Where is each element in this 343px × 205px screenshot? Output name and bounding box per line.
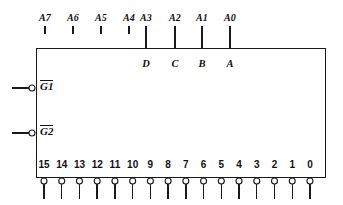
- output-bubble-4: [236, 178, 242, 184]
- output-bubble-1: [289, 178, 295, 184]
- output-bubble-11: [112, 178, 118, 184]
- output-bubble-12: [94, 178, 100, 184]
- logic-diagram: A7A6A5A4A3A2A1A0DCBAG1G21514131211109876…: [0, 0, 343, 205]
- output-bubble-7: [183, 178, 189, 184]
- output-label-9: 9: [148, 160, 154, 170]
- address-label-A6: A6: [67, 13, 79, 23]
- diagram-canvas: [0, 0, 343, 205]
- output-bubble-8: [165, 178, 171, 184]
- output-bubble-10: [130, 178, 136, 184]
- data-input-label-B: B: [198, 59, 205, 70]
- output-label-10: 10: [127, 160, 138, 170]
- output-label-11: 11: [110, 160, 121, 170]
- output-label-3: 3: [254, 160, 260, 170]
- output-bubble-15: [41, 178, 47, 184]
- data-input-label-C: C: [171, 59, 178, 70]
- inversion-bubble-G2: [29, 130, 35, 136]
- inversion-bubble-G1: [29, 85, 35, 91]
- output-label-14: 14: [56, 160, 67, 170]
- address-label-A5: A5: [95, 13, 107, 23]
- address-label-A2: A2: [169, 13, 181, 23]
- output-label-7: 7: [183, 160, 189, 170]
- output-bubble-14: [59, 178, 65, 184]
- output-bubble-3: [254, 178, 260, 184]
- enable-label-G2: G2: [40, 125, 53, 137]
- output-label-0: 0: [307, 160, 313, 170]
- address-label-A7: A7: [39, 13, 51, 23]
- output-bubble-2: [271, 178, 277, 184]
- address-label-A1: A1: [196, 13, 208, 23]
- output-bubble-5: [218, 178, 224, 184]
- address-label-A4: A4: [123, 13, 135, 23]
- output-label-6: 6: [201, 160, 207, 170]
- output-label-5: 5: [219, 160, 225, 170]
- output-bubble-0: [307, 178, 313, 184]
- output-label-8: 8: [165, 160, 171, 170]
- output-bubble-6: [201, 178, 207, 184]
- output-label-13: 13: [74, 160, 85, 170]
- address-label-A0: A0: [224, 13, 236, 23]
- data-input-label-A: A: [226, 59, 233, 70]
- address-label-A3: A3: [140, 13, 152, 23]
- output-label-12: 12: [92, 160, 103, 170]
- output-label-2: 2: [272, 160, 278, 170]
- output-label-4: 4: [236, 160, 242, 170]
- output-label-15: 15: [38, 160, 49, 170]
- output-bubble-13: [76, 178, 82, 184]
- enable-label-G1: G1: [40, 80, 53, 92]
- output-label-1: 1: [289, 160, 295, 170]
- data-input-label-D: D: [142, 59, 150, 70]
- output-bubble-9: [147, 178, 153, 184]
